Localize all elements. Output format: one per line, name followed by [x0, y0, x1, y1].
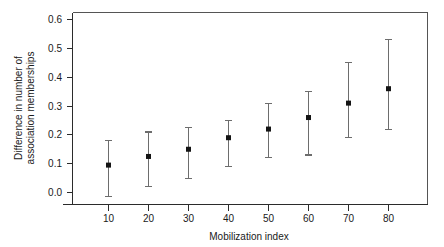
y-tick-label: 0.2	[48, 129, 62, 140]
y-tick-label: 0.0	[48, 187, 62, 198]
data-point-marker	[346, 101, 351, 106]
errorbar-group	[385, 40, 392, 129]
y-tick-label: 0.6	[48, 14, 62, 25]
errorbar-group	[145, 132, 152, 187]
plot-frame	[63, 13, 428, 205]
x-tick-label: 50	[263, 213, 275, 224]
errorbar-group	[265, 103, 272, 158]
y-tick-label: 0.1	[48, 158, 62, 169]
errorbar-plot: 0.6 0.5 0.4 0.3 0.2 0.1 0.0 10 20 30 40	[0, 0, 444, 247]
errorbar-group	[185, 128, 192, 178]
y-tick-label: 0.3	[48, 101, 62, 112]
x-tick-label: 80	[383, 213, 395, 224]
errorbar-group	[345, 63, 352, 138]
data-point-marker	[106, 163, 111, 168]
y-tick-label: 0.4	[48, 72, 62, 83]
data-point-marker	[386, 86, 391, 91]
data-point-marker	[146, 154, 151, 159]
x-tick-label: 10	[103, 213, 115, 224]
x-tick-label: 70	[343, 213, 355, 224]
y-tick-label: 0.5	[48, 43, 62, 54]
errorbar-group	[305, 92, 312, 155]
chart-figure: 0.6 0.5 0.4 0.3 0.2 0.1 0.0 10 20 30 40	[0, 0, 444, 247]
errorbar-group	[105, 141, 112, 197]
x-tick-label: 40	[223, 213, 235, 224]
data-point-marker	[266, 127, 271, 132]
y-axis-title-line1: Difference in number of	[13, 56, 24, 160]
y-axis-ticks: 0.6 0.5 0.4 0.3 0.2 0.1 0.0	[48, 14, 72, 198]
x-axis-title: Mobilization index	[209, 231, 289, 242]
data-series-errorbars	[105, 40, 392, 197]
x-tick-label: 60	[303, 213, 315, 224]
errorbar-group	[225, 120, 232, 166]
data-point-marker	[186, 147, 191, 152]
data-point-marker	[226, 135, 231, 140]
y-axis-title-line2: association memberships	[25, 52, 36, 165]
data-point-marker	[306, 115, 311, 120]
x-axis-ticks: 10 20 30 40 50 60 70 80	[103, 205, 395, 225]
x-tick-label: 20	[143, 213, 155, 224]
x-tick-label: 30	[183, 213, 195, 224]
